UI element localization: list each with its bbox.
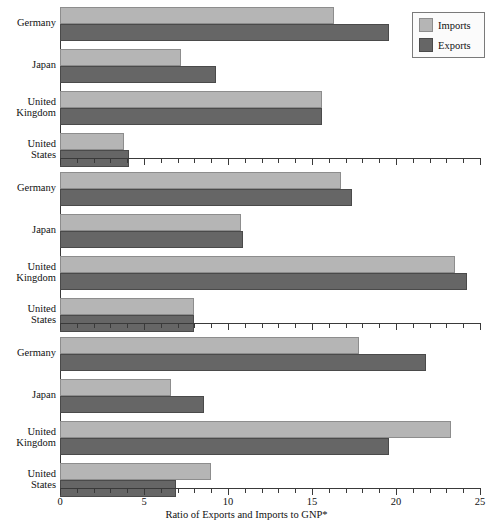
category-label-line: Kingdom xyxy=(0,272,56,284)
category-label-germany: Germany xyxy=(0,17,56,29)
x-tick-minor xyxy=(346,324,347,328)
x-tick-minor xyxy=(245,324,246,328)
x-tick-major xyxy=(312,324,313,330)
x-tick-minor xyxy=(194,324,195,328)
bar-1990-germany-exports xyxy=(60,354,426,371)
x-tick-minor xyxy=(211,324,212,328)
category-label-line: Kingdom xyxy=(0,437,56,449)
bar-1990-united-states-imports xyxy=(60,463,211,480)
x-tick-minor xyxy=(446,489,447,493)
x-tick-minor xyxy=(413,489,414,493)
category-label-line: Japan xyxy=(0,389,56,401)
x-tick-minor xyxy=(295,324,296,328)
bar-1970-japan-exports xyxy=(60,66,216,83)
category-label-line: Kingdom xyxy=(0,107,56,119)
x-tick-minor xyxy=(110,159,111,163)
x-tick-major xyxy=(228,324,229,330)
category-label-line: Germany xyxy=(0,17,56,29)
x-tick-minor xyxy=(178,324,179,328)
x-tick-minor xyxy=(211,159,212,163)
chart-legend: Imports Exports xyxy=(412,12,485,58)
bar-1970-united-kingdom-exports xyxy=(60,108,322,125)
x-tick-minor xyxy=(127,489,128,493)
x-tick-minor xyxy=(211,489,212,493)
x-tick-minor xyxy=(194,159,195,163)
bar-1980-germany-exports xyxy=(60,189,352,206)
x-tick-minor xyxy=(262,489,263,493)
category-label-japan: Japan xyxy=(0,59,56,71)
x-tick-minor xyxy=(262,324,263,328)
x-tick-minor xyxy=(94,159,95,163)
bar-1980-germany-imports xyxy=(60,172,341,189)
x-tick-minor xyxy=(94,489,95,493)
x-tick-minor xyxy=(430,489,431,493)
x-tick-minor xyxy=(161,324,162,328)
x-tick-label: 5 xyxy=(141,496,146,507)
x-tick-major xyxy=(60,324,61,330)
x-tick-major xyxy=(228,159,229,165)
x-tick-minor xyxy=(110,489,111,493)
x-tick-label: 0 xyxy=(57,496,62,507)
legend-entry-imports: Imports xyxy=(419,18,471,32)
x-tick-minor xyxy=(430,324,431,328)
x-tick-major xyxy=(480,159,481,165)
x-tick-minor xyxy=(77,159,78,163)
x-tick-major xyxy=(480,324,481,330)
category-label-line: United xyxy=(0,138,56,150)
x-axis-line xyxy=(60,158,481,159)
x-tick-minor xyxy=(278,324,279,328)
x-tick-minor xyxy=(362,324,363,328)
x-tick-minor xyxy=(245,159,246,163)
x-tick-major xyxy=(396,324,397,330)
x-tick-minor xyxy=(329,489,330,493)
x-tick-minor xyxy=(329,324,330,328)
x-tick-minor xyxy=(278,159,279,163)
category-label-united-kingdom: UnitedKingdom xyxy=(0,426,56,449)
x-tick-minor xyxy=(413,324,414,328)
category-label-line: Germany xyxy=(0,347,56,359)
legend-label-exports: Exports xyxy=(438,40,471,51)
category-label-germany: Germany xyxy=(0,347,56,359)
x-tick-minor xyxy=(446,159,447,163)
x-tick-minor xyxy=(110,324,111,328)
panel-1980: 1980GermanyJapanUnitedKingdomUnitedState… xyxy=(0,171,493,345)
bar-1970-united-kingdom-imports xyxy=(60,91,322,108)
category-label-united-states: UnitedStates xyxy=(0,468,56,491)
x-tick-minor xyxy=(463,324,464,328)
legend-entry-exports: Exports xyxy=(419,38,471,52)
x-tick-minor xyxy=(245,489,246,493)
category-label-line: United xyxy=(0,261,56,273)
category-label-japan: Japan xyxy=(0,224,56,236)
x-tick-minor xyxy=(77,324,78,328)
x-tick-minor xyxy=(161,489,162,493)
category-label-line: States xyxy=(0,479,56,491)
x-tick-minor xyxy=(379,324,380,328)
x-tick-major xyxy=(144,159,145,165)
legend-swatch-exports xyxy=(419,38,433,52)
x-tick-minor xyxy=(77,489,78,493)
category-label-united-states: UnitedStates xyxy=(0,303,56,326)
x-axis-line xyxy=(60,488,481,489)
category-label-germany: Germany xyxy=(0,182,56,194)
x-axis-line xyxy=(60,323,481,324)
bar-1990-united-kingdom-imports xyxy=(60,421,451,438)
bar-1980-united-kingdom-exports xyxy=(60,273,467,290)
x-tick-minor xyxy=(262,159,263,163)
x-tick-major xyxy=(228,489,229,495)
x-tick-major xyxy=(396,159,397,165)
x-tick-minor xyxy=(346,159,347,163)
x-tick-minor xyxy=(178,489,179,493)
category-label-japan: Japan xyxy=(0,389,56,401)
bar-1970-united-states-imports xyxy=(60,133,124,150)
x-tick-major xyxy=(60,159,61,165)
x-tick-minor xyxy=(94,324,95,328)
x-tick-minor xyxy=(430,159,431,163)
bar-1990-japan-imports xyxy=(60,379,171,396)
x-tick-minor xyxy=(178,159,179,163)
x-tick-major xyxy=(144,324,145,330)
panel-1990: 1990GermanyJapanUnitedKingdomUnitedState… xyxy=(0,336,493,510)
x-tick-minor xyxy=(278,489,279,493)
x-tick-major xyxy=(480,489,481,495)
bar-1990-united-kingdom-exports xyxy=(60,438,389,455)
x-tick-minor xyxy=(463,489,464,493)
